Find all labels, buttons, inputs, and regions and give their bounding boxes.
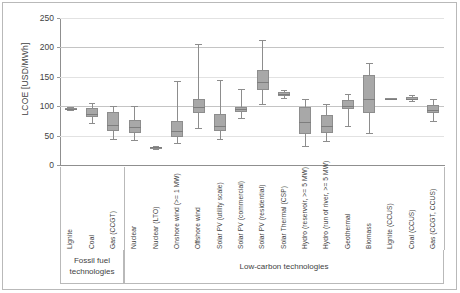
box-plot [427, 18, 439, 165]
whisker-cap-min [281, 98, 288, 99]
box-plot [150, 18, 162, 165]
whisker-lower [198, 113, 199, 128]
box-iqr [363, 75, 375, 113]
y-tick-label: 200 [26, 42, 54, 52]
category-group-label: Low-carbon technologies [124, 261, 444, 272]
whisker-cap-max [323, 104, 330, 105]
y-tick-label: 150 [26, 72, 54, 82]
x-tick-label: Gas (CCGT, CCUS) [429, 189, 436, 249]
x-tick-label: Onshore wind (>= 1 MW) [173, 173, 180, 249]
box-plot [363, 18, 375, 165]
whisker-upper [326, 104, 327, 115]
x-tick-label: Solar Thermal (CSP) [280, 186, 287, 249]
x-tick-label: Nuclear (LTO) [152, 207, 159, 249]
whisker-upper [220, 80, 221, 115]
box-iqr [107, 112, 119, 131]
y-tick-label: 0 [26, 160, 54, 170]
box-iqr [214, 114, 226, 131]
x-tick-label: Gas (CCGT) [109, 211, 116, 249]
whisker-upper [262, 40, 263, 69]
whisker-upper [369, 63, 370, 75]
box-plot [214, 18, 226, 165]
whisker-cap-max [430, 99, 437, 100]
whisker-lower [262, 90, 263, 105]
whisker-cap-min [217, 139, 224, 140]
whisker-upper [198, 44, 199, 98]
box-plot [235, 18, 247, 165]
box-iqr [86, 108, 98, 117]
whisker-lower [134, 133, 135, 141]
whisker-cap-max [345, 94, 352, 95]
x-tick-label: Hydro (run of river, >= 5 MW) [322, 161, 329, 249]
box-median [214, 126, 226, 127]
whisker-lower [305, 134, 306, 145]
whisker-cap-min [345, 126, 352, 127]
box-median [129, 127, 141, 128]
box-plot [321, 18, 333, 165]
category-group-divider [124, 167, 125, 250]
box-median [406, 99, 418, 100]
whisker-cap-min [153, 149, 160, 150]
x-axis-line [60, 165, 445, 166]
x-tick-label: Solar PV (utility scale) [216, 182, 223, 249]
box-plot [385, 18, 397, 165]
lcoe-box-plot-chart: LCOE [USD/MWh] 050100150200250 LigniteCo… [0, 0, 460, 293]
box-median [86, 114, 98, 115]
whisker-cap-max [366, 63, 373, 64]
y-tick-label: 100 [26, 101, 54, 111]
box-median [363, 99, 375, 100]
box-plot [193, 18, 205, 165]
box-plot [171, 18, 183, 165]
whisker-cap-max [131, 106, 138, 107]
box-median [107, 125, 119, 126]
box-median [171, 131, 183, 132]
x-tick-label: Hydro (reservoir, >= 5 MW) [301, 167, 308, 249]
category-group-label: Fossil fuel [60, 255, 124, 266]
x-tick-label: Lignite (CCUS) [386, 203, 393, 249]
whisker-cap-min [238, 118, 245, 119]
box-plot [278, 18, 290, 165]
box-plot [86, 18, 98, 165]
whisker-cap-min [131, 140, 138, 141]
x-tick-label: Nuclear [130, 226, 137, 249]
box-median [278, 94, 290, 95]
whisker-cap-min [430, 121, 437, 122]
y-tick-label: 50 [26, 131, 54, 141]
box-median [235, 109, 247, 110]
whisker-cap-max [195, 44, 202, 45]
whisker-cap-min [89, 123, 96, 124]
box-plot [129, 18, 141, 165]
whisker-cap-max [259, 40, 266, 41]
whisker-cap-min [259, 104, 266, 105]
box-plot [342, 18, 354, 165]
whisker-cap-max [302, 99, 309, 100]
whisker-cap-min [174, 143, 181, 144]
box-median [257, 82, 269, 83]
whisker-cap-min [323, 141, 330, 142]
whisker-cap-min [67, 110, 74, 111]
box-iqr [193, 99, 205, 114]
box-plot [107, 18, 119, 165]
box-median [342, 106, 354, 107]
whisker-cap-min [302, 146, 309, 147]
box-median [385, 99, 397, 100]
box-plot [299, 18, 311, 165]
whisker-cap-max [238, 89, 245, 90]
whisker-lower [113, 131, 114, 138]
box-iqr [171, 121, 183, 136]
category-group-divider [444, 167, 445, 250]
x-tick-label: Lignite [66, 229, 73, 249]
box-plot [65, 18, 77, 165]
category-group-label-line2: technologies [60, 266, 124, 277]
box-iqr [321, 115, 333, 133]
x-tick-label: Solar PV (commercial) [237, 181, 244, 249]
box-median [193, 107, 205, 108]
x-tick-label: Offshore wind [194, 207, 201, 249]
whisker-cap-min [366, 133, 373, 134]
y-tick-label: 250 [26, 13, 54, 23]
whisker-upper [241, 89, 242, 107]
whisker-cap-max [110, 106, 117, 107]
box-plot [406, 18, 418, 165]
box-median [321, 126, 333, 127]
box-plot [257, 18, 269, 165]
